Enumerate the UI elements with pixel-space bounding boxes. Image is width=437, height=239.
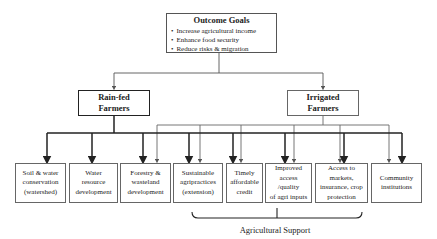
box-text: Sustainable (182, 169, 214, 179)
box-text: /quality (278, 183, 299, 193)
goal-item: Enhance food security (171, 36, 256, 45)
box-text: of agri inputs (270, 193, 307, 203)
goal-item: Increase agricultural income (171, 27, 256, 36)
irrigated-label-line1: Irrigated (306, 92, 339, 103)
outcome-goals-list: Increase agricultural income Enhance foo… (171, 27, 256, 54)
agri-inputs-box: Improved access /quality of agri inputs (265, 163, 312, 203)
box-text: Timely (235, 169, 255, 179)
box-text: Soil & water (23, 169, 59, 179)
outcome-goals-box: Outcome Goals Increase agricultural inco… (166, 13, 277, 53)
box-text: (watershed) (24, 188, 57, 198)
irrigated-label-line2: Farmers (307, 103, 338, 114)
box-text: agripractices (180, 178, 216, 188)
box-text: Improved (275, 164, 302, 174)
box-text: credit (237, 188, 253, 198)
box-text: insurance, crop (320, 183, 363, 193)
box-text: Community (380, 174, 413, 184)
forestry-wasteland-box: Forestry & wasteland development (120, 163, 171, 203)
rainfed-label-line1: Rain-fed (98, 92, 130, 103)
outcome-goals-title: Outcome Goals (171, 16, 272, 26)
box-text: Water (85, 169, 102, 179)
box-text: wasteland (132, 178, 160, 188)
rainfed-farmers-box: Rain-fed Farmers (78, 90, 150, 116)
timely-credit-box: Timely affordable credit (226, 163, 263, 203)
box-text: markets, (330, 174, 354, 184)
sustainable-agripractices-box: Sustainable agripractices (extension) (173, 163, 223, 203)
box-text: resource (82, 178, 106, 188)
box-text: conservation (23, 178, 59, 188)
soil-water-conservation-box: Soil & water conservation (watershed) (15, 163, 66, 203)
box-text: development (75, 188, 111, 198)
box-text: development (127, 188, 163, 198)
box-text: (extension) (182, 188, 214, 198)
box-text: Forestry & (130, 169, 161, 179)
goal-item: Reduce risks & migration (171, 45, 256, 54)
agri-support-bracket (192, 208, 362, 218)
community-institutions-box: Community institutions (371, 163, 422, 203)
markets-insurance-box: Access to markets, insurance, crop prote… (315, 163, 368, 203)
box-text: Access to (328, 164, 355, 174)
irrigated-farmers-box: Irrigated Farmers (287, 90, 359, 116)
water-resource-development-box: Water resource development (69, 163, 118, 203)
box-text: access (280, 174, 298, 184)
agricultural-support-label: Agricultural Support (215, 225, 335, 235)
box-text: protection (327, 193, 355, 203)
box-text: affordable (230, 178, 259, 188)
rainfed-label-line2: Farmers (98, 103, 129, 114)
box-text: institutions (381, 183, 412, 193)
